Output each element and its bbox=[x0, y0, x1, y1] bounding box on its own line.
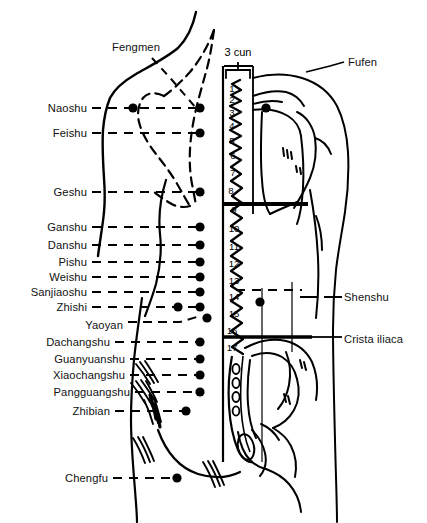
acupoint-dot-naoshu bbox=[195, 103, 204, 112]
vertebra-number-10: 10 bbox=[229, 223, 240, 234]
acupoint-label-yaoyan: Yaoyan bbox=[85, 319, 123, 331]
acupoint-dot-yaoyan bbox=[202, 313, 211, 322]
acupoint-label-geshu: Geshu bbox=[54, 186, 87, 198]
vertebra-number-3: 3 bbox=[229, 107, 234, 118]
acupoint-dot-naoshu bbox=[128, 103, 137, 112]
anatomy-label-fufen: Fufen bbox=[348, 56, 377, 68]
acupoint-dot-geshu bbox=[195, 187, 204, 196]
vertebra-number-4: 4 bbox=[229, 120, 234, 131]
acupoint-dot-fufen bbox=[261, 103, 270, 112]
acupoint-dot-zhishi bbox=[195, 302, 204, 311]
acupoint-dot-xiaochangshu bbox=[195, 370, 204, 379]
vertebra-number-14: 14 bbox=[229, 291, 240, 302]
acupoint-dot-ganshu bbox=[195, 222, 204, 231]
acupoint-label-zhishi: Zhishi bbox=[57, 301, 87, 313]
vertebra-number-12: 12 bbox=[229, 258, 240, 269]
anatomy-label-shenshu: Shenshu bbox=[344, 291, 389, 303]
acupoint-label-dachangshu: Dachangshu bbox=[46, 336, 110, 348]
acupoint-label-danshu: Danshu bbox=[48, 239, 87, 251]
acupoint-label-ganshu: Ganshu bbox=[47, 221, 87, 233]
acupoint-label-naoshu: Naoshu bbox=[48, 102, 87, 114]
acupoint-dot-pishu bbox=[195, 257, 204, 266]
acupoint-dot-feishu bbox=[195, 128, 204, 137]
acupoint-label-pangguangshu: Pangguangshu bbox=[54, 386, 130, 398]
acupoint-dot-dachangshu bbox=[195, 337, 204, 346]
anatomy-label-crista-iliaca: Crista iliaca bbox=[344, 333, 403, 345]
vertebra-number-13: 13 bbox=[229, 275, 240, 286]
acupoint-label-fengmen: Fengmen bbox=[112, 41, 160, 53]
acupoint-label-xiaochangshu: Xiaochangshu bbox=[53, 369, 125, 381]
acupoint-dot-guanyuanshu bbox=[195, 354, 204, 363]
acupoint-dot-shenshu bbox=[255, 297, 264, 306]
acupoint-dot-pangguangshu bbox=[195, 387, 204, 396]
vertebra-number-11: 11 bbox=[229, 241, 239, 252]
acupoint-label-sanjiaoshu: Sanjiaoshu bbox=[31, 286, 87, 298]
acupoint-label-guanyuanshu: Guanyuanshu bbox=[54, 353, 125, 365]
vertebra-number-2: 2 bbox=[229, 94, 234, 105]
acupoint-label-zhibian: Zhibian bbox=[73, 405, 110, 417]
acupoint-label-weishu: Weishu bbox=[49, 271, 87, 283]
vertebra-number-1: 1 bbox=[229, 83, 234, 94]
acupoint-dot-chengfu bbox=[172, 473, 181, 482]
vertebra-number-5: 5 bbox=[229, 135, 234, 146]
acupoint-dot-danshu bbox=[195, 240, 204, 249]
acupoint-label-pishu: Pishu bbox=[59, 256, 88, 268]
acupoint-dot-weishu bbox=[195, 272, 204, 281]
acupoint-dot-zhibian bbox=[181, 406, 190, 415]
vertebra-number-7: 7 bbox=[230, 167, 235, 178]
three-cun-label: 3 cun bbox=[225, 46, 252, 58]
acupoint-label-feishu: Feishu bbox=[53, 127, 87, 139]
acupoint-dot-sanjiaoshu bbox=[195, 287, 204, 296]
acupoint-dot-zhishi bbox=[173, 302, 182, 311]
vertebra-number-15: 15 bbox=[229, 308, 240, 319]
vertebra-number-8: 8 bbox=[228, 185, 233, 196]
acupoint-label-chengfu: Chengfu bbox=[65, 472, 108, 484]
vertebra-number-16: 16 bbox=[227, 325, 238, 336]
vertebra-number-9: 9 bbox=[231, 204, 236, 215]
vertebra-number-17: 17 bbox=[227, 342, 238, 353]
vertebra-number-6: 6 bbox=[230, 150, 235, 161]
